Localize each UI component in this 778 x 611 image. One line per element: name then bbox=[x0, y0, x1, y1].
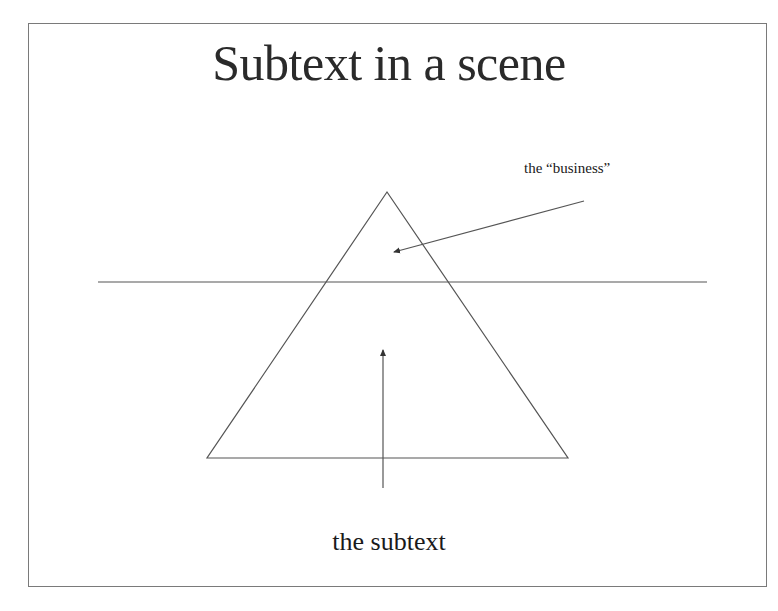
triangle-shape bbox=[207, 192, 568, 458]
business-label: the “business” bbox=[524, 160, 610, 177]
subtext-label: the subtext bbox=[0, 527, 778, 557]
iceberg-diagram bbox=[0, 0, 778, 611]
business-arrow bbox=[394, 201, 584, 252]
